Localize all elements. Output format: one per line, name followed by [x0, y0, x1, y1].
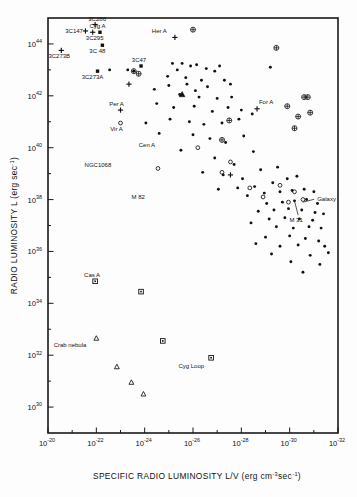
- dot-marker: [218, 65, 221, 68]
- data-point: [229, 83, 232, 86]
- dot-marker: [270, 253, 273, 256]
- square-marker-center: [162, 340, 164, 342]
- data-point: [189, 65, 192, 68]
- dot-marker: [176, 68, 179, 71]
- data-point: [200, 79, 203, 82]
- data-point: [208, 137, 211, 140]
- data-point: [322, 212, 325, 215]
- data-point: [206, 85, 209, 88]
- data-point: [144, 122, 147, 125]
- data-point: [221, 122, 224, 125]
- data-point: [286, 177, 289, 180]
- dot-marker: [194, 89, 197, 92]
- data-point: [218, 65, 221, 68]
- dot-marker: [205, 67, 208, 70]
- data-point: [314, 211, 317, 214]
- data-point: [217, 188, 220, 191]
- data-point: [227, 106, 230, 109]
- data-point: [275, 225, 278, 228]
- dot-marker: [287, 207, 290, 210]
- dot-marker: [283, 216, 286, 219]
- dot-marker: [281, 201, 284, 204]
- filled-square-marker: [101, 44, 104, 47]
- dot-marker: [263, 192, 266, 195]
- data-point: [213, 70, 216, 73]
- data-point: [172, 106, 175, 109]
- data-point: [230, 96, 233, 99]
- plot-background: [0, 0, 357, 497]
- data-point: [194, 89, 197, 92]
- dot-marker: [192, 133, 195, 136]
- source-label: 3C 48: [89, 48, 106, 54]
- dot-marker: [216, 97, 219, 100]
- dot-marker: [241, 177, 244, 180]
- data-point: [186, 83, 189, 86]
- dot-marker: [195, 63, 198, 66]
- dot-marker: [172, 106, 175, 109]
- data-point: [327, 251, 330, 254]
- dot-marker: [286, 177, 289, 180]
- dot-marker: [153, 88, 156, 91]
- dot-marker: [158, 132, 161, 135]
- data-point: [250, 221, 253, 224]
- data-point: [184, 76, 187, 79]
- dot-marker: [304, 237, 307, 240]
- dot-marker: [259, 168, 262, 171]
- dot-marker: [202, 123, 205, 126]
- data-point: [246, 194, 249, 197]
- dot-marker: [300, 208, 303, 211]
- data-point: [318, 263, 321, 266]
- source-label: 3C47: [132, 57, 147, 63]
- data-point: [302, 271, 305, 274]
- data-point: [136, 71, 141, 76]
- data-point: [273, 208, 276, 211]
- data-point: [188, 120, 191, 123]
- filled-square-marker: [98, 31, 101, 34]
- dot-marker: [275, 225, 278, 228]
- data-point: [279, 245, 282, 248]
- data-point: [320, 227, 323, 230]
- data-point: [265, 202, 268, 205]
- dot-marker: [169, 118, 172, 121]
- data-point: [268, 218, 271, 221]
- dot-marker: [240, 109, 243, 112]
- source-label: NGC1068: [85, 162, 112, 168]
- data-point: [305, 198, 308, 201]
- source-label: 3C147: [65, 28, 83, 34]
- data-point: [252, 150, 255, 153]
- data-point: [101, 44, 104, 47]
- source-label: Cen A: [139, 142, 155, 148]
- data-point: [179, 149, 182, 152]
- dot-marker: [184, 76, 187, 79]
- dot-marker: [189, 65, 192, 68]
- dot-marker: [206, 85, 209, 88]
- data-point: [155, 102, 158, 105]
- dot-marker: [269, 66, 272, 69]
- filled-square-marker: [96, 69, 99, 72]
- dot-marker: [213, 157, 216, 160]
- data-point: [303, 188, 306, 191]
- source-label: Cyg Loop: [178, 363, 204, 369]
- dot-marker: [314, 211, 317, 214]
- data-point: [241, 177, 244, 180]
- data-point: [251, 113, 254, 116]
- source-label: M 82: [132, 194, 146, 200]
- dot-marker: [229, 83, 232, 86]
- source-label: Per A: [109, 101, 124, 107]
- data-point: [233, 163, 236, 166]
- source-label: 3C295: [86, 35, 104, 41]
- data-point: [166, 75, 169, 78]
- data-point: [287, 207, 290, 210]
- dot-marker: [279, 245, 282, 248]
- dot-marker: [166, 75, 169, 78]
- dot-marker: [108, 68, 111, 71]
- data-point: [316, 202, 319, 205]
- dot-marker: [217, 188, 220, 191]
- data-point: [308, 110, 313, 115]
- data-point: [242, 135, 245, 138]
- data-point: [240, 109, 243, 112]
- data-point: [264, 236, 267, 239]
- data-point: [288, 234, 291, 237]
- scatter-plot: 10-2010-2210-2410-2610-2810-3010-3210301…: [0, 0, 357, 497]
- data-point: [305, 95, 310, 100]
